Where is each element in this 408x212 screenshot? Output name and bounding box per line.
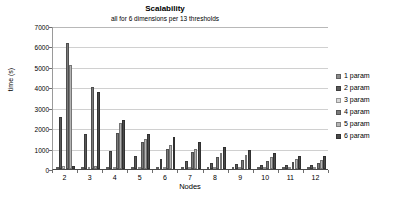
legend-item[interactable]: 5 param	[336, 118, 406, 130]
bar[interactable]	[198, 142, 201, 169]
y-tick-label: 3000	[3, 105, 49, 112]
x-tick-label: 11	[278, 174, 303, 182]
y-tick-label: 2000	[3, 126, 49, 133]
y-tick-label: 7000	[3, 24, 49, 31]
bar-group	[204, 27, 229, 169]
bar-group	[153, 27, 178, 169]
chart-title: Scalability	[0, 4, 330, 14]
legend-swatch-icon	[336, 134, 341, 139]
x-tick-label: 7	[177, 174, 202, 182]
chart-subtitle: all for 6 dimensions per 13 thresholds	[0, 14, 330, 23]
y-tick-label: 0	[3, 167, 49, 174]
legend-item[interactable]: 2 param	[336, 82, 406, 94]
x-tick-label: 12	[303, 174, 328, 182]
x-tick-mark	[228, 170, 229, 173]
y-axis-ticks: 70006000500040003000200010000	[0, 27, 49, 170]
bar-group	[279, 27, 304, 169]
legend-swatch-icon	[336, 74, 341, 79]
chart-title-block: Scalability all for 6 dimensions per 13 …	[0, 4, 330, 23]
plot-area	[52, 27, 328, 170]
x-tick-label: 3	[77, 174, 102, 182]
x-tick-mark	[328, 170, 329, 173]
bar-group	[128, 27, 153, 169]
bar[interactable]	[173, 137, 176, 169]
legend-item-label: 4 param	[344, 108, 370, 116]
x-tick-mark	[278, 170, 279, 173]
legend-item-label: 3 param	[344, 96, 370, 104]
chart-legend: 1 param2 param3 param4 param5 param6 par…	[336, 70, 406, 142]
x-tick-mark	[203, 170, 204, 173]
bar[interactable]	[298, 156, 301, 169]
legend-swatch-icon	[336, 86, 341, 91]
legend-item[interactable]: 3 param	[336, 94, 406, 106]
y-tick-label: 4000	[3, 85, 49, 92]
bar[interactable]	[248, 150, 251, 169]
bar[interactable]	[223, 147, 226, 169]
legend-swatch-icon	[336, 98, 341, 103]
x-tick-mark	[127, 170, 128, 173]
legend-item[interactable]: 1 param	[336, 70, 406, 82]
legend-swatch-icon	[336, 122, 341, 127]
legend-item-label: 2 param	[344, 84, 370, 92]
bar[interactable]	[122, 120, 125, 169]
y-tick-label: 1000	[3, 146, 49, 153]
y-tick-label: 5000	[3, 64, 49, 71]
x-tick-mark	[52, 170, 53, 173]
bar[interactable]	[323, 156, 326, 169]
bar-group	[304, 27, 329, 169]
y-tick-label: 6000	[3, 44, 49, 51]
bar[interactable]	[91, 87, 94, 169]
x-tick-mark	[177, 170, 178, 173]
x-tick-mark	[152, 170, 153, 173]
x-tick-label: 10	[253, 174, 278, 182]
x-axis-title: Nodes	[52, 182, 328, 191]
legend-item[interactable]: 4 param	[336, 106, 406, 118]
bar[interactable]	[69, 65, 72, 169]
x-tick-mark	[102, 170, 103, 173]
bar-group	[103, 27, 128, 169]
scalability-bar-chart: Scalability all for 6 dimensions per 13 …	[0, 0, 408, 212]
bar-group	[254, 27, 279, 169]
bar-group	[178, 27, 203, 169]
x-tick-label: 9	[228, 174, 253, 182]
bar[interactable]	[59, 117, 62, 169]
x-tick-label: 6	[152, 174, 177, 182]
bar[interactable]	[97, 92, 100, 169]
x-tick-label: 2	[52, 174, 77, 182]
bar[interactable]	[147, 134, 150, 169]
x-tick-mark	[253, 170, 254, 173]
bar[interactable]	[84, 134, 87, 169]
legend-swatch-icon	[336, 110, 341, 115]
x-tick-mark	[303, 170, 304, 173]
x-tick-label: 8	[203, 174, 228, 182]
x-tick-label: 4	[102, 174, 127, 182]
legend-item-label: 1 param	[344, 72, 370, 80]
bar-group	[229, 27, 254, 169]
x-tick-mark	[77, 170, 78, 173]
bar[interactable]	[273, 153, 276, 169]
bar-group	[53, 27, 78, 169]
bar[interactable]	[72, 166, 75, 169]
legend-item[interactable]: 6 param	[336, 130, 406, 142]
legend-item-label: 5 param	[344, 120, 370, 128]
bar-group	[78, 27, 103, 169]
legend-item-label: 6 param	[344, 132, 370, 140]
x-tick-label: 5	[127, 174, 152, 182]
